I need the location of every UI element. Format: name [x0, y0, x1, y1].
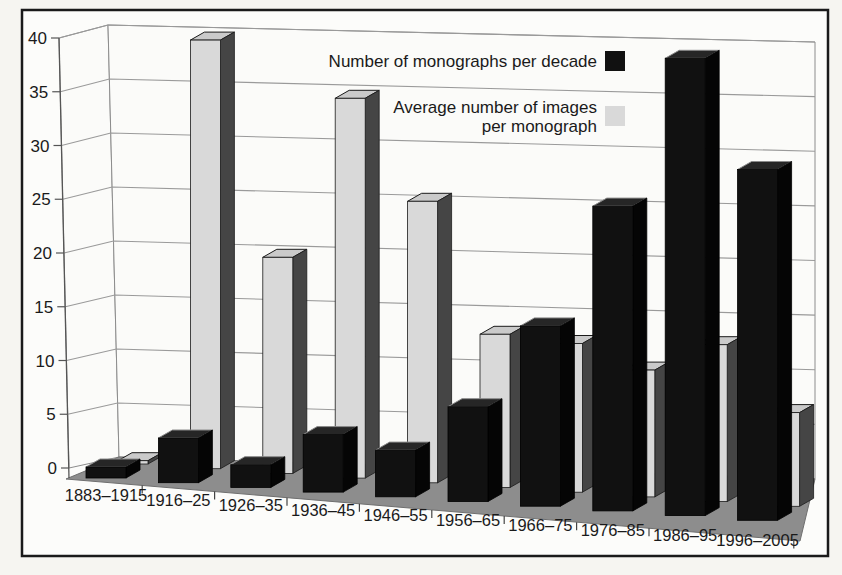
x-category-label-5: 1956–65 [436, 511, 500, 529]
bar-monographs1996-2005-side [778, 162, 792, 521]
bar-images1916-25-side [220, 32, 234, 469]
legend-label-images-line2: per monograph [482, 117, 597, 136]
y-tick-label-30: 30 [31, 137, 50, 156]
y-tick-label-15: 15 [34, 298, 53, 317]
bar-images1946-55-front [408, 201, 438, 483]
bar-images1936-45-front [335, 98, 365, 478]
y-tick-label-20: 20 [33, 244, 52, 263]
bar-chart-3d: 0510152025303540 1883–19151916–251926–35… [0, 0, 842, 575]
bar-monographs1966-75-side [560, 318, 574, 506]
x-category-label-0: 1883–1915 [65, 486, 148, 504]
y-tick-label-0: 0 [48, 459, 57, 478]
bar-monographs1976-85-side [633, 198, 647, 511]
x-category-label-9: 1996–2005 [716, 531, 799, 549]
y-tick-label-5: 5 [46, 405, 55, 424]
bar-monographs1966-75-front [520, 326, 560, 506]
legend-swatch-images [605, 106, 625, 126]
bar-monographs1976-85-front [593, 206, 633, 511]
bar-monographs1946-55-side [416, 442, 430, 497]
bar-images1936-45-side [365, 90, 379, 478]
bar-monographs1883-1915-front [86, 467, 126, 478]
bar-monographs1986-95-front [665, 58, 705, 515]
y-tick-label-35: 35 [29, 83, 48, 102]
x-category-label-3: 1936–45 [291, 501, 355, 519]
x-category-label-7: 1976–85 [581, 521, 645, 539]
x-category-label-4: 1946–55 [363, 506, 427, 524]
bar-images1926-35-front [263, 257, 293, 473]
x-category-label-2: 1926–35 [219, 496, 283, 514]
bar-monographs1946-55-front [376, 450, 416, 497]
legend-label-monographs: Number of monographs per decade [329, 52, 597, 71]
bar-monographs1996-2005-front [738, 169, 778, 520]
bar-monographs1956-65-side [488, 399, 502, 502]
legend-swatch-monographs [605, 51, 625, 71]
y-tick-label-10: 10 [36, 352, 55, 371]
bar-monographs1926-35-front [231, 465, 271, 488]
bar-monographs1936-45-front [303, 435, 343, 493]
bar-monographs1986-95-side [705, 50, 719, 515]
bar-images1916-25-front [190, 40, 220, 469]
bar-images1996-2005-side [800, 405, 814, 507]
x-category-label-6: 1966–75 [508, 516, 572, 534]
x-category-label-8: 1986–95 [653, 526, 717, 544]
bar-monographs1936-45-side [343, 427, 357, 493]
y-tick-label-40: 40 [28, 29, 47, 48]
bar-monographs1956-65-front [448, 407, 488, 502]
legend-label-images-line1: Average number of images [393, 98, 597, 117]
bar-monographs1916-25-front [158, 438, 198, 483]
bar-monographs1916-25-side [198, 430, 212, 483]
y-tick-label-25: 25 [32, 190, 51, 209]
x-category-label-1: 1916–25 [146, 491, 210, 509]
